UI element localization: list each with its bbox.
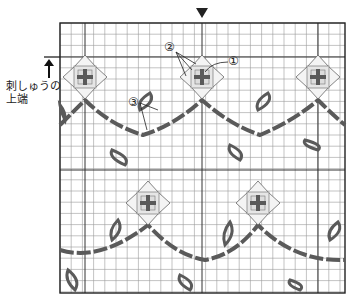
marker-2: ② [164,41,175,54]
leader-lines [140,52,228,130]
marker-3: ③ [128,96,139,109]
marker-1: ① [228,55,239,68]
embroidery-chart [0,0,353,304]
top-edge-label: 刺しゅうの 上端 [6,80,61,106]
center-marker-icon [196,8,208,18]
arrow-head-icon [44,59,54,66]
